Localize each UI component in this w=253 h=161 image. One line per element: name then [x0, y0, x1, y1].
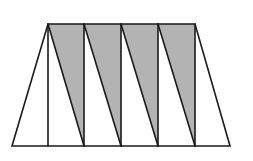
- trapezoid-diagram: [0, 0, 253, 161]
- diagram-canvas: [0, 0, 253, 161]
